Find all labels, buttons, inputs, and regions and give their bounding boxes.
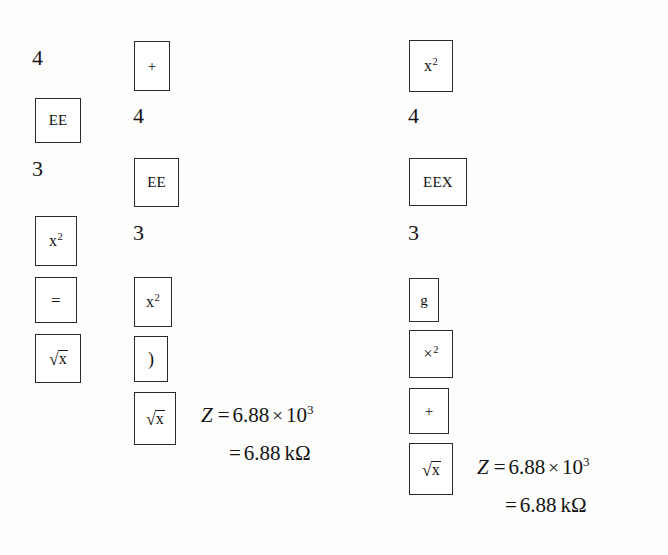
result-exponent: 3 bbox=[583, 454, 590, 469]
keystroke-column-right: x2 4 EEX 3 g ×2 + √x Z=6.88×103 =6.88kΩ bbox=[0, 0, 668, 555]
keystroke-digit: 3 bbox=[408, 222, 419, 244]
calculator-key-g[interactable]: g bbox=[409, 278, 439, 322]
calculator-key-x-squared[interactable]: x2 bbox=[409, 40, 453, 92]
key-label: √x bbox=[421, 461, 441, 478]
key-label: + bbox=[425, 404, 434, 419]
equals-sign: = bbox=[491, 455, 509, 479]
equals-sign: = bbox=[502, 493, 520, 517]
document-page: 4 EE 3 x2 = √x + 4 EE 3 x2 ) bbox=[0, 0, 668, 555]
key-label: EEX bbox=[423, 175, 453, 190]
calculator-key-plus[interactable]: + bbox=[409, 388, 449, 434]
calculator-key-square-root[interactable]: √x bbox=[409, 443, 453, 495]
key-label: ×2 bbox=[423, 346, 438, 362]
result-variable: Z bbox=[477, 455, 491, 479]
result-equation-line2: =6.88kΩ bbox=[502, 494, 587, 516]
result-value: 6.88 bbox=[520, 493, 557, 517]
result-base: 10 bbox=[562, 455, 583, 479]
result-mantissa: 6.88 bbox=[509, 455, 546, 479]
calculator-key-cross-squared[interactable]: ×2 bbox=[409, 330, 453, 378]
result-unit: kΩ bbox=[557, 493, 587, 517]
multiplication-sign: × bbox=[545, 457, 562, 478]
keystroke-digit: 4 bbox=[408, 105, 419, 127]
result-equation-line1: Z=6.88×103 bbox=[477, 456, 590, 478]
key-label: g bbox=[420, 293, 428, 308]
calculator-key-eex[interactable]: EEX bbox=[409, 158, 467, 206]
key-label: x2 bbox=[424, 58, 438, 74]
